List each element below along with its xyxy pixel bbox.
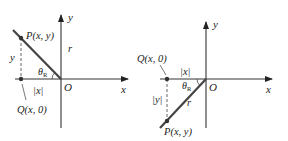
point-Q [19, 77, 23, 81]
horizontal-leg-label: |x| [33, 85, 43, 96]
vertical-leg-label: |y| [152, 94, 162, 105]
angle-label: θR [182, 80, 192, 92]
x-axis-label: x [265, 83, 271, 95]
y-axis-label: y [67, 11, 73, 23]
vertical-leg-label: y [9, 52, 15, 63]
point-P-label: P(x, y) [25, 30, 54, 42]
diagram-quadrant-2: y x O P(x, y) r θR y |x| Q(x, 0) [9, 11, 128, 128]
angle-label: θR [38, 66, 48, 78]
x-axis-label: x [120, 83, 126, 95]
y-axis-label: y [212, 18, 218, 30]
Q-leader-line [22, 84, 26, 100]
reference-angle-arc [52, 73, 55, 79]
reference-angle-arc [197, 79, 200, 86]
diagram-quadrant-3: y x O Q(x, 0) |x| θR r |y| P(x, y) [137, 18, 272, 138]
point-P [19, 36, 23, 40]
point-Q-label: Q(x, 0) [17, 104, 47, 116]
origin-label: O [64, 81, 72, 93]
Q-leader-line [160, 65, 166, 75]
radius-label: r [187, 97, 192, 108]
point-P-label: P(x, y) [163, 126, 192, 138]
radius-label: r [68, 43, 73, 54]
point-P [165, 119, 169, 123]
reference-angle-diagrams: y x O P(x, y) r θR y |x| Q(x, 0) y x O Q… [0, 0, 288, 141]
point-Q [165, 77, 169, 81]
horizontal-leg-label: |x| [180, 66, 190, 77]
point-Q-label: Q(x, 0) [137, 53, 167, 65]
origin-label: O [209, 81, 217, 93]
